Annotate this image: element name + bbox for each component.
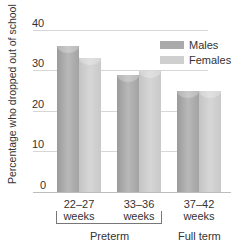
legend-swatch-males: [160, 41, 184, 49]
preterm-bracket: [56, 211, 162, 224]
bar-males-33-36: [117, 75, 139, 192]
bar-males-37-42: [177, 91, 199, 192]
bar-females-33-36: [139, 71, 161, 192]
group-label-full-term: Full term: [178, 230, 221, 242]
legend-item-males: Males: [160, 37, 231, 52]
y-tick-40: 40: [32, 17, 48, 29]
y-axis-label: Percentage who dropped out of school: [6, 14, 20, 184]
bar-females-37-42: [199, 91, 221, 192]
bar-females-22-27: [79, 58, 101, 192]
x-category-37-42: 37–42 weeks: [169, 198, 229, 222]
legend-item-females: Females: [160, 52, 231, 67]
legend-swatch-females: [160, 56, 184, 64]
group-label-preterm: Preterm: [90, 230, 129, 242]
y-tick-10: 10: [32, 138, 48, 150]
bar-males-22-27: [57, 46, 79, 192]
gridline-40: [33, 30, 208, 31]
legend: Males Females: [160, 37, 231, 67]
y-tick-30: 30: [32, 57, 48, 69]
x-axis-line: [33, 192, 231, 193]
y-tick-20: 20: [32, 98, 48, 110]
y-tick-0: 0: [40, 179, 56, 191]
